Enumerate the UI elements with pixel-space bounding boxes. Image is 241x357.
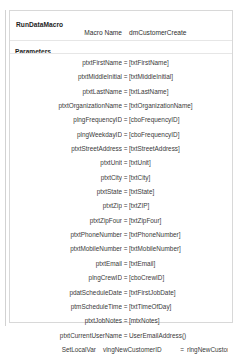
parameter-value[interactable]: [cboFrequencyID] — [129, 113, 226, 127]
parameter-row[interactable]: plngFrequencyID = [cboFrequencyID] — [10, 113, 232, 127]
parameter-value[interactable]: [txtState] — [129, 185, 226, 199]
parameter-name: ptxtCurrentUserName — [10, 329, 122, 343]
parameter-value[interactable]: [mtxNotes] — [129, 314, 226, 328]
set-local-var-equals-sign: = — [177, 343, 187, 357]
equals-sign: = — [122, 70, 129, 84]
equals-sign: = — [122, 242, 129, 256]
macro-name-value[interactable]: dmCustomerCreate — [122, 25, 226, 40]
parameter-value[interactable]: [txtUnit] — [129, 156, 226, 170]
parameters-top-rule — [10, 40, 232, 41]
parameter-value[interactable]: [txtTimeOfDay] — [129, 300, 226, 314]
equals-sign: = — [122, 142, 129, 156]
parameter-name: ptxtFirstName — [10, 56, 122, 70]
parameter-value[interactable]: [cboFrequencyID] — [129, 128, 226, 142]
parameter-value[interactable]: [txtMiddleInitial] — [129, 70, 226, 84]
parameter-row[interactable]: ptxtStreetAddress = [txtStreetAddress] — [10, 142, 232, 156]
equals-sign: = — [122, 185, 129, 199]
parameter-value[interactable]: [txtPhoneNumber] — [129, 228, 226, 242]
parameter-value[interactable]: [txtFirstJobDate] — [129, 286, 226, 300]
parameter-name: ptmScheduleTime — [10, 300, 122, 314]
set-local-var-expression[interactable]: rlngNewCustomerID — [187, 343, 228, 357]
parameter-name: ptxtZipFour — [10, 214, 122, 228]
parameter-name: ptxtCity — [10, 171, 122, 185]
equals-sign: = — [122, 113, 129, 127]
parameter-row[interactable]: ptxtUnit = [txtUnit] — [10, 156, 232, 170]
parameter-name: ptxtOrganizationName — [10, 99, 122, 113]
parameter-row[interactable]: ptxtOrganizationName = [txtOrganizationN… — [10, 99, 232, 113]
equals-sign: = — [122, 156, 129, 170]
parameter-row[interactable]: ptxtFirstName = [txtFirstName] — [10, 56, 232, 70]
action-name-label: RunDataMacro — [16, 21, 63, 28]
parameter-row[interactable]: ptmScheduleTime = [txtTimeOfDay] — [10, 300, 232, 314]
parameter-name: plngFrequencyID — [10, 113, 122, 127]
parameter-row[interactable]: ptxtState = [txtState] — [10, 185, 232, 199]
parameter-value[interactable]: [txtFirstName] — [129, 56, 226, 70]
equals-sign: = — [122, 214, 129, 228]
set-local-var-action-label: SetLocalVar — [10, 343, 96, 357]
parameter-name: ptxtMobileNumber — [10, 242, 122, 256]
run-data-macro-action-block[interactable]: RunDataMacro Macro Name dmCustomerCreate… — [9, 10, 233, 323]
parameter-row[interactable]: pdatScheduleDate = [txtFirstJobDate] — [10, 286, 232, 300]
parameter-name: plngCrewID — [10, 271, 122, 285]
parameters-bottom-rule — [10, 53, 232, 54]
parameter-row[interactable]: ptxtZipFour = [txtZipFour] — [10, 214, 232, 228]
parameter-value[interactable]: [txtZipFour] — [129, 214, 226, 228]
parameter-value[interactable]: [txtLastName] — [129, 85, 226, 99]
parameter-name: ptxtZip — [10, 199, 122, 213]
parameter-name: ptxtLastName — [10, 85, 122, 99]
parameter-row[interactable]: ptxtCurrentUserName = UserEmailAddress() — [10, 329, 232, 343]
parameter-value[interactable]: [txtStreetAddress] — [129, 142, 226, 156]
equals-sign: = — [122, 314, 129, 328]
parameter-value[interactable]: [txtMobileNumber] — [129, 242, 226, 256]
equals-sign: = — [122, 329, 129, 343]
parameter-row[interactable]: ptxtJobNotes = [mtxNotes] — [10, 314, 232, 328]
equals-sign: = — [122, 228, 129, 242]
parameter-value[interactable]: UserEmailAddress() — [129, 329, 226, 343]
parameter-row[interactable]: plngWeekdayID = [cboFrequencyID] — [10, 128, 232, 142]
parameter-value[interactable]: [txtCity] — [129, 171, 226, 185]
parameter-row[interactable]: ptxtMobileNumber = [txtMobileNumber] — [10, 242, 232, 256]
parameter-row[interactable]: ptxtLastName = [txtLastName] — [10, 85, 232, 99]
macro-flow-rail — [5, 10, 6, 326]
parameter-row[interactable]: ptxtEmail = [txtEmail] — [10, 257, 232, 271]
parameter-name: ptxtJobNotes — [10, 314, 122, 328]
parameters-list: ptxtFirstName = [txtFirstName] ptxtMiddl… — [10, 54, 232, 357]
equals-sign: = — [122, 271, 129, 285]
parameter-row[interactable]: ptxtPhoneNumber = [txtPhoneNumber] — [10, 228, 232, 242]
equals-sign: = — [122, 99, 129, 113]
parameter-name: ptxtPhoneNumber — [10, 228, 122, 242]
equals-sign: = — [122, 300, 129, 314]
set-local-var-row[interactable]: SetLocalVar vlngNewCustomerID = rlngNewC… — [10, 343, 232, 357]
equals-sign: = — [122, 56, 129, 70]
parameter-row[interactable]: ptxtMiddleInitial = [txtMiddleInitial] — [10, 70, 232, 84]
parameter-value[interactable]: [cboCrewID] — [129, 271, 226, 285]
parameter-value[interactable]: [txtOrganizationName] — [129, 99, 226, 113]
parameter-row[interactable]: ptxtZip = [txtZIP] — [10, 199, 232, 213]
equals-sign: = — [122, 257, 129, 271]
parameter-value[interactable]: [txtZIP] — [129, 199, 226, 213]
parameter-row[interactable]: plngCrewID = [cboCrewID] — [10, 271, 232, 285]
equals-sign: = — [122, 199, 129, 213]
parameter-name: ptxtStreetAddress — [10, 142, 122, 156]
parameter-name: plngWeekdayID — [10, 128, 122, 142]
parameter-name: ptxtMiddleInitial — [10, 70, 122, 84]
parameter-value[interactable]: [txtEmail] — [129, 257, 226, 271]
equals-sign: = — [122, 128, 129, 142]
parameter-name: ptxtEmail — [10, 257, 122, 271]
set-local-var-variable-name[interactable]: vlngNewCustomerID — [96, 343, 177, 357]
equals-sign: = — [122, 171, 129, 185]
action-block-header[interactable]: RunDataMacro — [10, 11, 232, 25]
parameter-name: ptxtState — [10, 185, 122, 199]
parameter-name: pdatScheduleDate — [10, 286, 122, 300]
parameter-row[interactable]: ptxtCity = [txtCity] — [10, 171, 232, 185]
parameters-section-header: Parameters — [10, 40, 232, 54]
equals-sign: = — [122, 286, 129, 300]
parameter-name: ptxtUnit — [10, 156, 122, 170]
equals-sign: = — [122, 85, 129, 99]
